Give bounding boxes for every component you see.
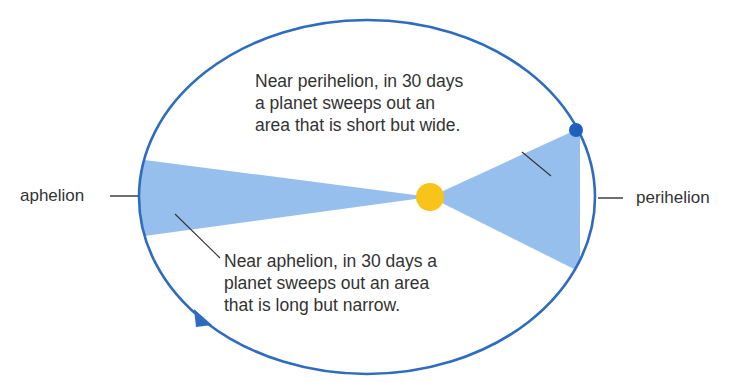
perihelion-callout-line: a planet sweeps out an (255, 92, 463, 114)
planet-icon (569, 123, 583, 137)
perihelion-label: perihelion (636, 187, 710, 209)
aphelion-callout-line: Near aphelion, in 30 days a (224, 250, 437, 272)
perihelion-swept-area (430, 128, 580, 272)
sun-icon (416, 183, 444, 211)
aphelion-callout-line: planet sweeps out an area (224, 272, 437, 294)
aphelion-callout-line: that is long but narrow. (224, 294, 437, 316)
perihelion-callout-line: Near perihelion, in 30 days (255, 70, 463, 92)
aphelion-swept-area (130, 158, 430, 238)
perihelion-callout-line: area that is short but wide. (255, 114, 463, 136)
arrowhead-icon (194, 309, 212, 327)
aphelion-callout: Near aphelion, in 30 days a planet sweep… (224, 250, 437, 316)
aphelion-label: aphelion (20, 185, 84, 207)
perihelion-callout: Near perihelion, in 30 days a planet swe… (255, 70, 463, 136)
